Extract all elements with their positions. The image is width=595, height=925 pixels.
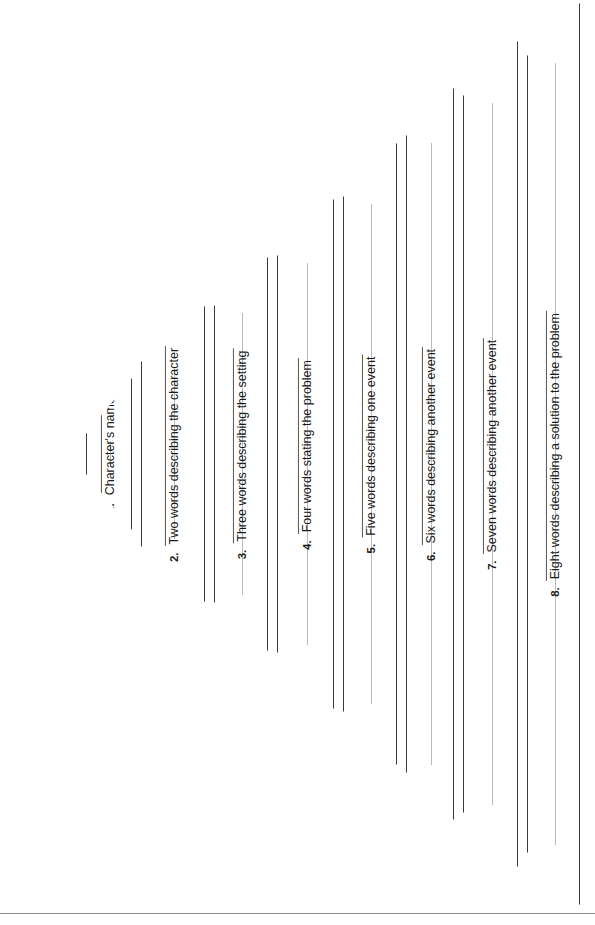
prompt-number-7: 7. <box>486 561 499 571</box>
prompt-number-8: 8. <box>549 587 562 597</box>
prompt-label-7: Seven words describing another event <box>482 338 498 555</box>
prompt-3: 3.Three words describing the setting <box>233 349 249 560</box>
prompt-7: 7.Seven words describing another event <box>482 338 498 570</box>
worksheet-canvas: 1.Character's name2.Two words describing… <box>0 0 595 925</box>
prompt-label-4: Four words stating the problem <box>297 358 313 534</box>
prompt-number-2: 2. <box>169 553 182 563</box>
prompt-label-5: Five words describing one event <box>362 355 378 538</box>
prompt-label-3: Three words describing the setting <box>233 349 249 544</box>
prompt-1: 1.Character's name <box>101 395 117 513</box>
pyramid-row-8[interactable]: 8.Eight words describing a solution to t… <box>527 3 580 905</box>
prompt-number-5: 5. <box>366 544 379 554</box>
prompt-number-3: 3. <box>237 550 250 560</box>
prompt-label-8: Eight words describing a solution to the… <box>545 311 561 581</box>
prompt-6: 6.Six words describing another event <box>422 347 438 561</box>
pyramid-row-6[interactable]: 6.Six words describing another event <box>406 88 454 820</box>
prompt-label-6: Six words describing another event <box>422 347 438 546</box>
pyramid-row-7[interactable]: 7.Seven words describing another event <box>463 41 518 867</box>
footer-divider <box>0 913 595 914</box>
pyramid-row-4[interactable]: 4.Four words stating the problem <box>277 199 334 709</box>
prompt-number-4: 4. <box>301 540 314 550</box>
prompt-5: 5.Five words describing one event <box>362 355 378 554</box>
prompt-number-1: 1. <box>105 503 118 513</box>
prompt-label-1: Character's name <box>101 395 117 497</box>
prompt-2: 2.Two words describing the character <box>165 346 181 562</box>
prompt-label-2: Two words describing the character <box>165 346 181 547</box>
pyramid-row-3[interactable]: 3.Three words describing the setting <box>214 257 268 651</box>
prompt-number-6: 6. <box>426 551 439 561</box>
prompt-8: 8.Eight words describing a solution to t… <box>545 311 561 597</box>
pyramid-row-5[interactable]: 5.Five words describing one event <box>343 143 397 765</box>
pyramid-row-1[interactable]: 1.Character's name <box>86 378 132 530</box>
pyramid-row-2[interactable]: 2.Two words describing the character <box>141 306 205 602</box>
prompt-4: 4.Four words stating the problem <box>297 358 313 550</box>
